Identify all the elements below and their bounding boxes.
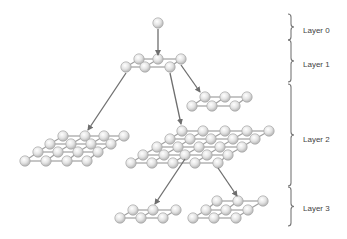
atom-spheres bbox=[20, 18, 274, 223]
atom-sphere bbox=[33, 147, 43, 157]
atom-sphere bbox=[153, 18, 163, 28]
atom-sphere bbox=[190, 158, 200, 168]
atom-sphere bbox=[250, 134, 260, 144]
brace-icon bbox=[288, 14, 294, 40]
atom-sphere bbox=[220, 92, 230, 102]
atom-sphere bbox=[128, 205, 138, 215]
atom-sphere bbox=[41, 156, 51, 166]
arrow-icon bbox=[181, 65, 200, 92]
atom-sphere bbox=[115, 213, 125, 223]
atom-sphere bbox=[242, 92, 252, 102]
atom-sphere bbox=[106, 139, 116, 149]
atom-sphere bbox=[119, 131, 129, 141]
atom-sphere bbox=[148, 205, 158, 215]
atom-sphere bbox=[194, 142, 204, 152]
atom-sphere bbox=[176, 54, 186, 64]
atom-sphere bbox=[138, 150, 148, 160]
layer-diagram bbox=[0, 0, 347, 239]
atom-sphere bbox=[228, 134, 238, 144]
atom-sphere bbox=[82, 156, 92, 166]
atom-sphere bbox=[45, 139, 55, 149]
arrow-icon bbox=[88, 73, 126, 130]
atom-sphere bbox=[180, 150, 190, 160]
layer-0-label: Layer 0 bbox=[303, 26, 330, 35]
atom-sphere bbox=[20, 156, 30, 166]
atom-sphere bbox=[121, 62, 131, 72]
atom-sphere bbox=[220, 126, 230, 136]
atom-sphere bbox=[215, 142, 225, 152]
atom-sphere bbox=[213, 158, 223, 168]
atom-sphere bbox=[212, 196, 222, 206]
atom-sphere bbox=[258, 196, 268, 206]
atom-sphere bbox=[126, 158, 136, 168]
atom-sphere bbox=[177, 126, 187, 136]
atom-sphere bbox=[230, 101, 240, 111]
atom-sphere bbox=[264, 126, 274, 136]
brace-icon bbox=[288, 187, 294, 226]
brace-icon bbox=[288, 40, 294, 82]
layer-3-label: Layer 3 bbox=[303, 204, 330, 213]
atom-sphere bbox=[62, 156, 72, 166]
atom-sphere bbox=[165, 62, 175, 72]
atom-sphere bbox=[147, 158, 157, 168]
layer-braces bbox=[288, 14, 294, 226]
atom-sphere bbox=[223, 150, 233, 160]
atom-sphere bbox=[243, 205, 253, 215]
atom-sphere bbox=[165, 134, 175, 144]
arrow-icon bbox=[170, 73, 181, 124]
atom-sphere bbox=[206, 134, 216, 144]
atom-sphere bbox=[188, 213, 198, 223]
atom-sphere bbox=[198, 126, 208, 136]
atom-sphere bbox=[202, 150, 212, 160]
atom-sphere bbox=[207, 101, 217, 111]
arrow-icon bbox=[218, 168, 237, 196]
atom-sphere bbox=[73, 147, 83, 157]
atom-sphere bbox=[209, 213, 219, 223]
atom-sphere bbox=[185, 134, 195, 144]
layer-1-label: Layer 1 bbox=[303, 60, 330, 69]
atom-sphere bbox=[233, 196, 243, 206]
atom-sphere bbox=[242, 126, 252, 136]
layer-2-label: Layer 2 bbox=[303, 135, 330, 144]
atom-sphere bbox=[159, 150, 169, 160]
atom-sphere bbox=[201, 205, 211, 215]
atom-sphere bbox=[58, 131, 68, 141]
atom-sphere bbox=[237, 142, 247, 152]
atom-sphere bbox=[93, 147, 103, 157]
atom-sphere bbox=[187, 101, 197, 111]
atom-sphere bbox=[221, 205, 231, 215]
atom-sphere bbox=[171, 205, 181, 215]
atom-sphere bbox=[231, 213, 241, 223]
atom-sphere bbox=[158, 213, 168, 223]
atom-sphere bbox=[153, 54, 163, 64]
atom-sphere bbox=[168, 158, 178, 168]
atom-sphere bbox=[200, 92, 210, 102]
atom-sphere bbox=[136, 213, 146, 223]
brace-icon bbox=[288, 84, 294, 186]
atom-sphere bbox=[140, 62, 150, 72]
hierarchy-arrows bbox=[88, 29, 237, 204]
atom-sphere bbox=[53, 147, 63, 157]
